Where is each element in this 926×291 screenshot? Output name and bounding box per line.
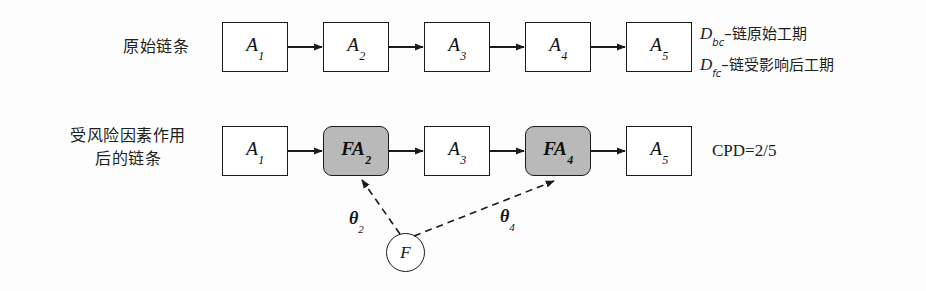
legend-symbol: D <box>700 55 712 74</box>
node-a4-row1: A4 <box>525 22 591 72</box>
node-fa4-row2: FA4 <box>525 126 591 176</box>
legend-text: –链原始工期 <box>724 25 807 43</box>
node-label: A2 <box>347 34 365 60</box>
node-label: A3 <box>448 34 466 60</box>
legend-subscript: fc <box>712 68 721 79</box>
node-label: A1 <box>246 138 264 164</box>
node-label: A1 <box>246 34 264 60</box>
cpd-value-label: CPD=2/5 <box>712 141 776 161</box>
legend-symbol: D <box>700 24 712 43</box>
node-label: A3 <box>448 138 466 164</box>
theta-4-label: θ4 <box>500 206 515 229</box>
node-label: FA4 <box>543 138 573 164</box>
node-a5-row1: A5 <box>626 22 692 72</box>
node-a3-row2: A3 <box>424 126 490 176</box>
risk-source-node-f: F <box>386 233 425 272</box>
legend-item-dfc: Dfc–链受影响后工期 <box>700 53 834 76</box>
node-fa2-row2: FA2 <box>323 126 389 176</box>
node-a5-row2: A5 <box>626 126 692 176</box>
figure-canvas: 原始链条 A1 A2 A3 A4 A5 受风险因素作用 后的链条 A1 FA2 … <box>0 0 926 291</box>
node-label: A5 <box>650 34 668 60</box>
risk-source-label: F <box>400 243 410 263</box>
legend-text: –链受影响后工期 <box>721 56 834 74</box>
node-a1-row2: A1 <box>222 126 288 176</box>
node-label: FA2 <box>341 138 371 164</box>
theta-2-label: θ2 <box>349 208 364 231</box>
row-label-risk-affected-chain: 受风险因素作用 后的链条 <box>48 124 208 170</box>
node-label: A5 <box>650 138 668 164</box>
node-a3-row1: A3 <box>424 22 490 72</box>
legend-subscript: bc <box>712 37 724 48</box>
row-label-original-chain: 原始链条 <box>108 35 204 58</box>
legend-item-dbc: Dbc–链原始工期 <box>700 22 807 45</box>
dashed-arrow-f-to-fa4 <box>414 181 554 236</box>
dashed-arrow-f-to-fa2 <box>362 180 400 234</box>
node-a2-row1: A2 <box>323 22 389 72</box>
node-label: A4 <box>549 34 567 60</box>
node-a1-row1: A1 <box>222 22 288 72</box>
